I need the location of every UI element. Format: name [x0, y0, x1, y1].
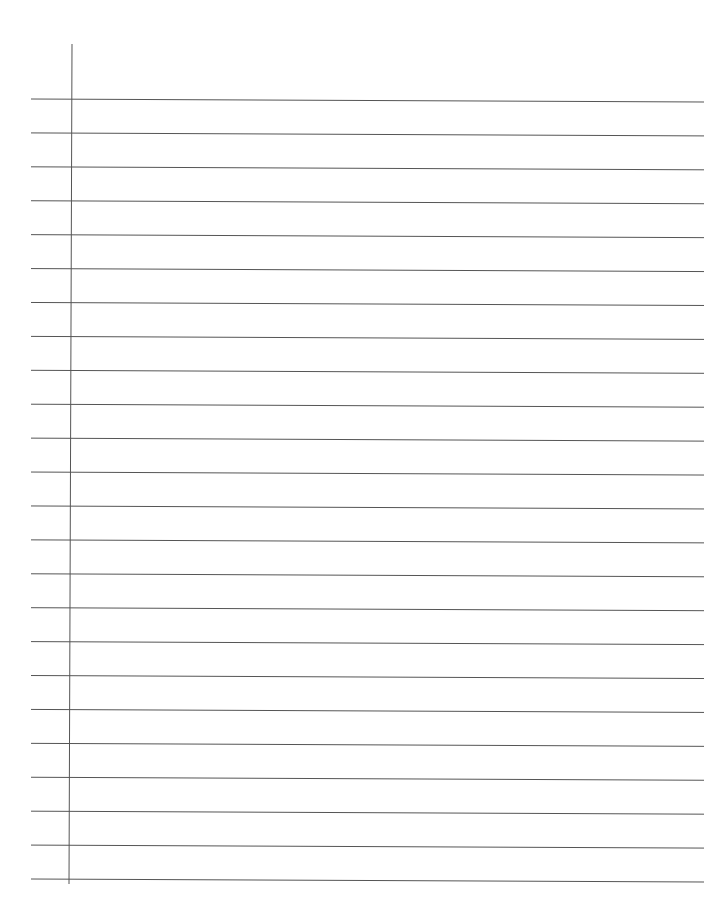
ruled-line: [31, 777, 704, 780]
ruled-line: [31, 133, 704, 136]
ruled-line: [31, 235, 704, 238]
ruled-line: [31, 574, 704, 577]
ruled-line: [31, 811, 704, 814]
ruled-line: [31, 709, 704, 712]
ruled-line: [31, 506, 704, 509]
ruled-line: [31, 201, 704, 204]
lined-paper: [0, 0, 708, 919]
ruled-line: [31, 404, 704, 407]
ruled-line: [31, 676, 704, 679]
ruled-line: [31, 99, 704, 102]
ruled-line: [31, 845, 704, 848]
ruled-line: [31, 336, 704, 339]
ruled-lines: [31, 99, 704, 882]
ruled-line: [31, 269, 704, 272]
ruled-line: [31, 879, 704, 882]
margin-line: [69, 44, 72, 884]
ruled-line: [31, 608, 704, 611]
ruled-line: [31, 472, 704, 475]
ruled-line: [31, 743, 704, 746]
ruled-line: [31, 302, 704, 305]
ruled-line: [31, 167, 704, 170]
ruled-line: [31, 540, 704, 543]
ruled-line: [31, 642, 704, 645]
ruled-line: [31, 438, 704, 441]
ruled-line: [31, 370, 704, 373]
